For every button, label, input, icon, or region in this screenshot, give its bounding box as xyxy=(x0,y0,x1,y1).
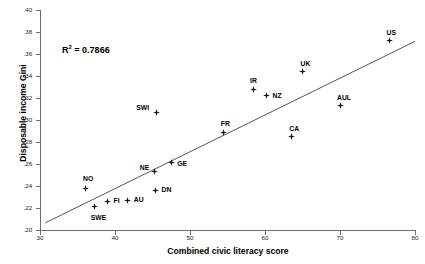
y-axis-line xyxy=(40,10,41,231)
x-tick-label: 40 xyxy=(103,234,127,241)
r-squared-value: 0.7866 xyxy=(82,45,110,55)
data-point-ca xyxy=(288,133,295,140)
point-label-aul: AUL xyxy=(337,94,351,101)
point-label-ne: NE xyxy=(140,164,149,171)
scatter-chart: .40.38.36.34.32.30.28.26.24.22.20 304050… xyxy=(0,0,425,264)
data-point-us xyxy=(386,37,393,44)
y-tick-label: .38 xyxy=(16,28,32,35)
x-tick-label: 70 xyxy=(328,234,352,241)
point-label-ca: CA xyxy=(289,125,299,132)
data-point-ne xyxy=(151,168,158,175)
data-point-ir xyxy=(250,86,257,93)
y-tick xyxy=(36,98,40,99)
x-tick-label: 50 xyxy=(178,234,202,241)
y-tick xyxy=(36,142,40,143)
y-tick xyxy=(36,186,40,187)
x-tick-label: 80 xyxy=(403,234,425,241)
regression-trendline xyxy=(0,0,425,264)
data-point-fr xyxy=(220,129,227,136)
data-point-uk xyxy=(299,68,306,75)
x-axis-line xyxy=(40,230,416,231)
x-tick-label: 30 xyxy=(28,234,52,241)
point-label-ge: GE xyxy=(177,160,187,167)
point-label-us: US xyxy=(387,29,396,36)
point-label-nz: NZ xyxy=(273,92,282,99)
r-squared-text: R2 = 0.7866 xyxy=(62,45,110,55)
y-tick xyxy=(36,120,40,121)
y-tick-label: .22 xyxy=(16,204,32,211)
data-point-aul xyxy=(337,102,344,109)
point-label-swe: SWE xyxy=(91,214,106,221)
data-point-swi xyxy=(153,109,160,116)
point-label-fi: FI xyxy=(114,197,120,204)
y-tick xyxy=(36,208,40,209)
data-point-swe xyxy=(91,203,98,210)
x-axis-title: Combined civic literacy score xyxy=(40,246,416,256)
point-label-swi: SWI xyxy=(136,104,149,111)
point-label-ir: IR xyxy=(250,77,257,84)
point-label-uk: UK xyxy=(301,60,311,67)
data-point-dn xyxy=(152,187,159,194)
data-point-no xyxy=(82,185,89,192)
y-tick xyxy=(36,164,40,165)
data-point-nz xyxy=(263,92,270,99)
point-label-fr: FR xyxy=(221,120,230,127)
data-point-au xyxy=(124,197,131,204)
y-tick-label: .40 xyxy=(16,6,32,13)
y-tick xyxy=(36,10,40,11)
y-tick xyxy=(36,54,40,55)
y-tick-label: .20 xyxy=(16,226,32,233)
x-tick-label: 60 xyxy=(253,234,277,241)
point-label-no: NO xyxy=(83,175,93,182)
point-label-au: AU xyxy=(134,196,144,203)
data-point-ge xyxy=(168,159,175,166)
data-point-fi xyxy=(104,198,111,205)
y-tick xyxy=(36,76,40,77)
y-tick xyxy=(36,32,40,33)
y-axis-title: Disposable income Gini xyxy=(18,38,28,188)
r-squared-annotation: R2 = 0.7866 xyxy=(62,44,110,55)
point-label-dn: DN xyxy=(162,186,172,193)
